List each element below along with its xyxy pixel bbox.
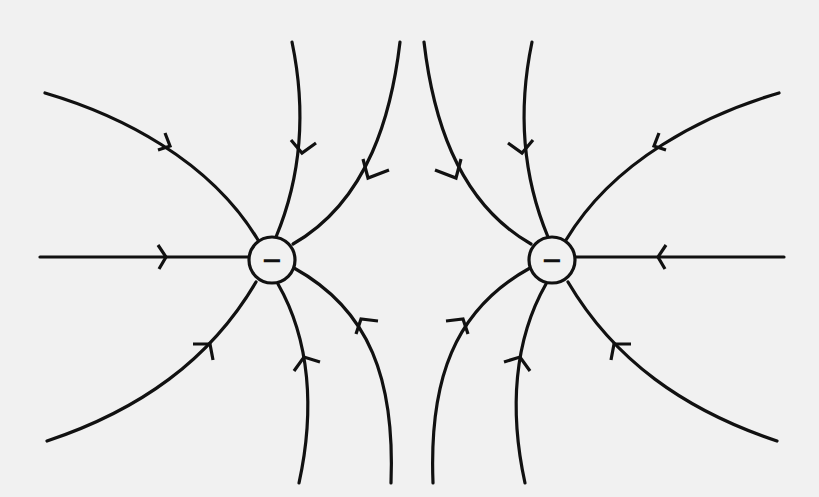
field-line	[568, 282, 777, 441]
field-lines-diagram: − −	[0, 0, 819, 497]
arrow-icon	[654, 133, 666, 150]
field-line	[45, 93, 258, 240]
field-line	[276, 42, 300, 237]
arrow-icon	[158, 133, 170, 150]
charge-sign: −	[261, 245, 283, 275]
field-line	[47, 282, 256, 441]
field-line	[278, 284, 308, 483]
field-line	[294, 268, 391, 483]
right-charge-field-lines	[424, 42, 784, 483]
left-charge: −	[249, 237, 295, 283]
arrow-icon	[508, 140, 533, 153]
field-line	[516, 284, 546, 483]
field-line	[524, 42, 548, 237]
field-line	[566, 93, 779, 240]
field-line	[424, 42, 531, 244]
field-line	[433, 268, 530, 483]
charge-sign: −	[541, 245, 563, 275]
arrow-icon	[446, 319, 468, 334]
left-charge-field-lines	[40, 42, 400, 483]
arrow-icon	[291, 140, 316, 153]
field-line	[293, 42, 400, 244]
right-charge: −	[529, 237, 575, 283]
arrow-icon	[356, 319, 378, 334]
